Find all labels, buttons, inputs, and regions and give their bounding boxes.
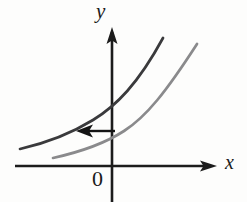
diagram-canvas (0, 0, 247, 202)
x-axis-label: x (225, 152, 234, 172)
curve-shifted-exponential (20, 38, 163, 149)
curve-base-exponential (53, 44, 197, 158)
y-axis-label: y (96, 1, 105, 22)
origin-label: 0 (92, 168, 103, 190)
exponential-shift-diagram: y x 0 (0, 0, 247, 202)
